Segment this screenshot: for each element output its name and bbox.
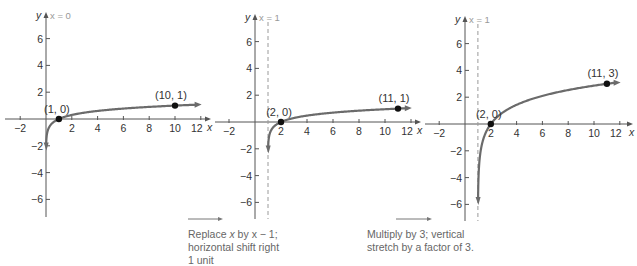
arrowhead-icon [195,102,202,108]
log-curve [478,83,615,199]
point-label: (10, 1) [155,89,187,101]
svg-text:8: 8 [565,127,571,139]
svg-text:y: y [244,11,251,23]
svg-text:−4: −4 [450,172,462,184]
svg-text:−2: −2 [223,125,235,137]
y-axis: y642−2−4−6 [450,13,469,221]
three-log-graphs: x−224681012y642−2−4−6x = 0(1, 0)(10, 1)x… [0,0,637,266]
point-label: (2, 0) [476,108,502,120]
svg-text:4: 4 [95,122,101,134]
svg-text:2: 2 [37,86,43,98]
arrowhead-icon [476,197,481,205]
data-point [604,81,610,87]
svg-text:10: 10 [379,125,391,137]
x-axis: x−224681012 [215,119,423,137]
svg-text:2: 2 [69,122,75,134]
svg-text:x: x [628,126,635,138]
caption-horizontal-shift: Replace x by x − 1; horizontal shift rig… [188,228,279,266]
svg-text:12: 12 [191,122,203,134]
svg-text:y: y [454,13,461,25]
point-label: (1, 0) [44,103,70,115]
asymptote-label: x = 1 [469,14,490,25]
svg-text:4: 4 [456,64,462,76]
arrowhead-icon [44,142,49,150]
svg-text:y: y [35,9,42,21]
svg-text:10: 10 [588,127,600,139]
svg-text:8: 8 [356,125,362,137]
arrowhead-icon [405,105,412,111]
svg-text:−6: −6 [31,193,43,205]
svg-text:x: x [416,124,423,136]
svg-text:4: 4 [304,125,310,137]
svg-text:6: 6 [120,122,126,134]
graph-1: x−224681012y642−2−4−6x = 0(1, 0)(10, 1) [5,9,213,217]
point-label: (2, 0) [266,106,292,118]
x-axis: x−224681012 [5,116,213,134]
data-point [56,116,62,122]
svg-text:−2: −2 [433,127,445,139]
x-axis: x−224681012 [425,121,635,139]
point-label: (11, 1) [379,92,410,104]
svg-text:10: 10 [169,122,181,134]
svg-text:−2: −2 [240,143,252,155]
point-label: (11, 3) [587,67,618,79]
arrowhead-icon [614,80,621,86]
svg-text:6: 6 [539,127,545,139]
svg-text:−6: −6 [240,196,252,208]
svg-text:2: 2 [278,125,284,137]
svg-text:−6: −6 [450,198,462,210]
svg-text:x: x [206,121,213,133]
data-point [278,119,284,125]
data-point [395,105,401,111]
svg-text:2: 2 [456,91,462,103]
svg-text:12: 12 [610,127,622,139]
svg-text:6: 6 [456,38,462,50]
graph-3: x−224681012y642−2−4−6x = 1(2, 0)(11, 3) [425,13,635,221]
svg-text:−2: −2 [31,140,43,152]
svg-text:−4: −4 [240,170,252,182]
svg-text:4: 4 [246,62,252,74]
svg-text:12: 12 [401,125,413,137]
svg-text:2: 2 [246,89,252,101]
data-point [488,121,494,127]
data-point [172,102,178,108]
graph-2: x−224681012y642−2−4−6x = 1(2, 0)(11, 1) [215,11,423,219]
svg-text:6: 6 [246,36,252,48]
svg-text:4: 4 [37,59,43,71]
svg-text:4: 4 [514,127,520,139]
svg-text:8: 8 [146,122,152,134]
asymptote-label: x = 0 [50,10,71,21]
asymptote-label: x = 1 [259,12,280,23]
svg-text:−2: −2 [450,145,462,157]
svg-text:6: 6 [37,33,43,45]
caption-vertical-stretch: Multiply by 3; vertical stretch by a fac… [367,228,474,254]
svg-text:−2: −2 [14,122,26,134]
svg-text:6: 6 [330,125,336,137]
svg-text:−4: −4 [31,167,43,179]
arrowhead-icon [266,145,271,153]
y-axis: y642−2−4−6 [240,11,259,219]
